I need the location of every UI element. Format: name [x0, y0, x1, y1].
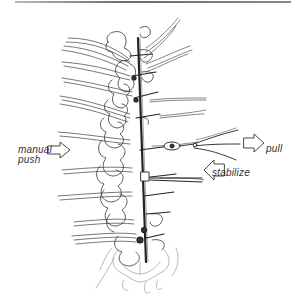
push-label: push [18, 155, 41, 165]
stabilize-label: stabilize [212, 168, 250, 178]
right-strands [144, 18, 206, 180]
sacrum [96, 248, 178, 293]
vertebrae [97, 32, 140, 266]
pull-label: pull [266, 144, 282, 154]
pull-arrow [244, 134, 264, 152]
pull-forceps [164, 128, 240, 160]
